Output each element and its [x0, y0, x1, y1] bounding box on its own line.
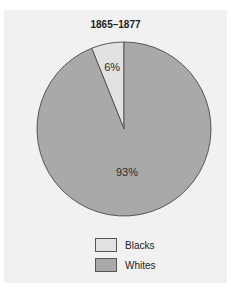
legend-swatch-blacks — [95, 238, 117, 252]
pie-slice-whites — [37, 42, 211, 216]
pie-slices — [37, 42, 211, 216]
legend-item-whites: Whites — [95, 258, 156, 272]
slice-label-whites: 93% — [116, 166, 138, 178]
legend-label-blacks: Blacks — [125, 240, 154, 251]
legend-label-whites: Whites — [125, 260, 156, 271]
slice-label-blacks: 6% — [104, 61, 120, 73]
legend-swatch-whites — [95, 258, 117, 272]
legend-item-blacks: Blacks — [95, 238, 154, 252]
